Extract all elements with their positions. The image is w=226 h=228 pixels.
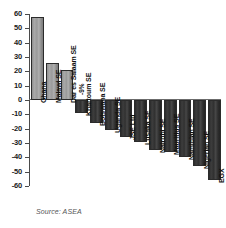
y-axis-tick [25, 71, 29, 72]
y-axis-tick-label: 30 [0, 53, 22, 61]
category-label: Dar es Salaam SE [70, 45, 77, 103]
y-axis-tick-label: 40 [0, 39, 22, 47]
bar-slot: -35% [148, 14, 163, 186]
y-axis-tick [25, 100, 29, 101]
chart-container: 6050403020100-10-20-30-40-50-60 +58%+26%… [0, 0, 226, 228]
y-axis-tick [25, 86, 29, 87]
y-axis-tick [25, 157, 29, 158]
y-axis-tick [25, 57, 29, 58]
category-label: Nairobi SE [159, 119, 166, 153]
y-axis-tick-label: -30 [0, 139, 22, 147]
bar-value-label: -9% [78, 84, 85, 95]
bar-slot: -29% [133, 14, 148, 186]
category-label: EGX [218, 169, 225, 183]
category-label: Mauritius SE [173, 113, 180, 154]
y-axis-tick [25, 43, 29, 44]
y-axis-tick [25, 28, 29, 29]
y-axis-tick [25, 129, 29, 130]
y-axis-tick-label: 60 [0, 10, 22, 18]
y-axis-tick-label: -50 [0, 168, 22, 176]
category-label: Botswana SE [99, 83, 106, 126]
category-label: Uganda SE [114, 97, 121, 133]
y-axis-tick [25, 114, 29, 115]
category-label: JSE Ltd [129, 115, 136, 140]
y-axis-tick-label: 20 [0, 67, 22, 75]
y-axis-tick-label: 0 [0, 96, 22, 104]
y-axis-tick [25, 14, 29, 15]
y-axis-tick-label: 50 [0, 24, 22, 32]
category-label: Malawi SE [55, 70, 62, 103]
category-label: Nigerian SE [203, 131, 210, 169]
y-axis-tick [25, 172, 29, 173]
y-axis-tick-label: -40 [0, 153, 22, 161]
y-axis-tick-label: -10 [0, 110, 22, 118]
y-axis-tick [25, 186, 29, 187]
category-label: Ghana [40, 82, 47, 103]
y-axis-tick-label: 10 [0, 82, 22, 90]
bar-slot: -40% [178, 14, 193, 186]
source-note: Source: ASEA [36, 208, 82, 215]
bar-slot: -36% [163, 14, 178, 186]
y-axis-tick-label: -60 [0, 182, 22, 190]
category-label: Lusaka SE [144, 110, 151, 145]
category-label: Khartoum SE [85, 73, 92, 116]
category-label: Namibian SE [188, 119, 195, 161]
y-axis-tick [25, 143, 29, 144]
y-axis-tick-label: -20 [0, 125, 22, 133]
